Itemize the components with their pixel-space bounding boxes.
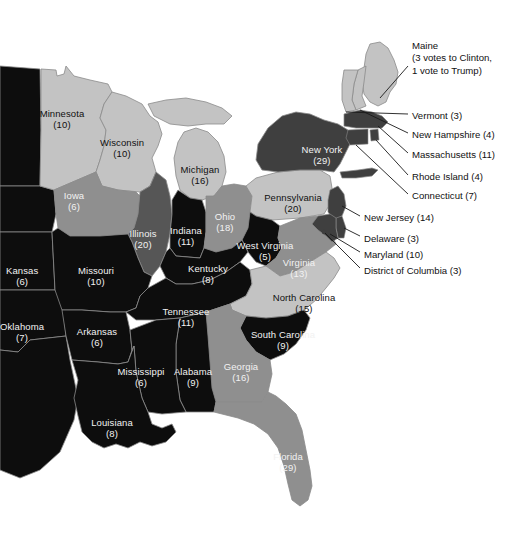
callout-label-de: Delaware (3) (364, 233, 419, 245)
callout-line: District of Columbia (3) (364, 265, 462, 277)
callout-label-md: Maryland (10) (364, 249, 423, 261)
leader-line-ma (378, 126, 408, 153)
callout-label-dc: District of Columbia (3) (364, 265, 462, 277)
leader-line-de (344, 228, 360, 236)
us-map-graphic (0, 0, 524, 557)
leader-line-ri (376, 140, 408, 175)
leader-line-nj (342, 206, 360, 216)
state-shape-mi-upper (148, 98, 232, 126)
state-shape-ks-clipped (0, 232, 55, 290)
callout-line: New Hampshire (4) (412, 129, 495, 141)
state-shape-tx-clipped (0, 336, 78, 478)
state-shape-fl (214, 392, 312, 506)
state-shape-in (170, 190, 206, 258)
callout-label-nh: New Hampshire (4) (412, 129, 495, 141)
state-shape-ar (62, 310, 132, 364)
electoral-map-figure: Minnesota(10)Wisconsin(10)Michigan(16)Io… (0, 0, 524, 557)
state-shape-pa (246, 170, 332, 220)
callout-line: Delaware (3) (364, 233, 419, 245)
state-shape-ne-clipped (0, 186, 56, 232)
callout-line: Maine (412, 40, 492, 52)
state-shape-ny-longisland (340, 168, 378, 178)
state-shape-me (362, 42, 398, 106)
callout-line: (3 votes to Clinton, (412, 52, 492, 64)
callout-line: Maryland (10) (364, 249, 423, 261)
callout-label-vt: Vermont (3) (412, 110, 462, 122)
state-shape-ct (346, 129, 368, 145)
state-shapes-group (0, 42, 398, 506)
callout-label-me: Maine(3 votes to Clinton,1 vote to Trump… (412, 40, 492, 77)
callout-line: Rhode Island (4) (412, 171, 483, 183)
state-shape-ny (256, 112, 352, 172)
callout-label-ct: Connecticut (7) (412, 190, 477, 202)
state-shape-nd-sd-clipped (0, 66, 41, 186)
callout-line: Vermont (3) (412, 110, 462, 122)
state-shape-mi-lower (174, 128, 226, 200)
state-shape-ri (370, 129, 379, 141)
callout-label-ri: Rhode Island (4) (412, 171, 483, 183)
callout-line: Connecticut (7) (412, 190, 477, 202)
callout-label-nj: New Jersey (14) (364, 212, 434, 224)
callout-line: Massachusetts (11) (412, 149, 495, 161)
callout-line: New Jersey (14) (364, 212, 434, 224)
callout-label-ma: Massachusetts (11) (412, 149, 495, 161)
callout-line: 1 vote to Trump) (412, 65, 492, 77)
